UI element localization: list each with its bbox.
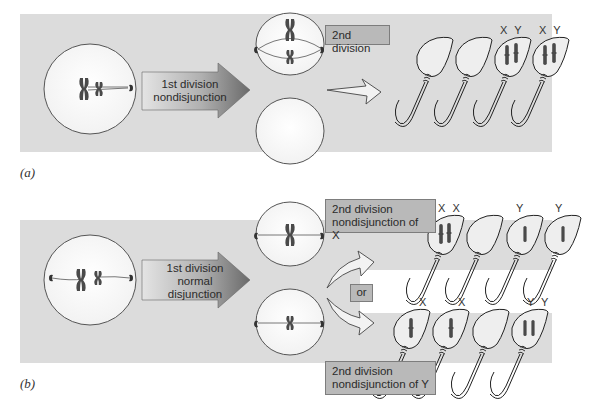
panel-b-daughter-cell-top <box>254 202 324 266</box>
arrow-label-line: nondisjunction <box>150 91 230 104</box>
panel-b-parent-cell <box>44 235 136 325</box>
panel-b-arrow-label: 1st division normal disjunction <box>155 262 235 301</box>
gamete-label: X X <box>438 202 462 214</box>
panel-a-arrow-label: 1st division nondisjunction <box>150 78 230 104</box>
arrow-label-line: normal <box>155 275 235 288</box>
gamete-label: X <box>458 296 467 308</box>
box-label-line: 2nd division <box>332 203 429 216</box>
panel-a-daughter-cell-bottom-empty <box>256 98 324 164</box>
gamete-label: X <box>419 296 428 308</box>
arrow-label-line: disjunction <box>155 288 235 301</box>
box-label-line: nondisjunction of Y <box>332 378 429 391</box>
box-label: 2nd division <box>332 29 370 54</box>
box-label-line: nondisjunction of X <box>332 216 429 242</box>
panel-b-bottom-box: 2nd division nondisjunction of Y <box>325 361 436 395</box>
arrow-label-line: 1st division <box>155 262 235 275</box>
panel-b-daughter-cell-bottom <box>254 289 324 355</box>
gamete-label: X Y <box>500 24 524 36</box>
panel-a-second-division-box: 2nd division <box>325 25 390 45</box>
gamete-label: Y <box>555 202 564 214</box>
panel-a-label: (a) <box>20 165 35 181</box>
panel-b-or-box: or <box>350 284 373 302</box>
panel-b-label: (b) <box>20 376 35 392</box>
arrow-label-line: 1st division <box>150 78 230 91</box>
panel-a-daughter-cell-top <box>254 13 324 75</box>
box-label-line: 2nd division <box>332 365 429 378</box>
panel-a-second-division-arrow <box>327 79 381 104</box>
panel-a-parent-cell <box>44 44 136 134</box>
gamete-label: Y Y <box>527 296 550 308</box>
diagram-canvas <box>0 0 594 415</box>
gamete-label: X Y <box>539 24 563 36</box>
or-label: or <box>356 286 366 298</box>
gamete-label: Y <box>516 202 525 214</box>
panel-b-top-box: 2nd division nondisjunction of X <box>325 199 436 233</box>
panel-a-gametes <box>395 37 569 126</box>
